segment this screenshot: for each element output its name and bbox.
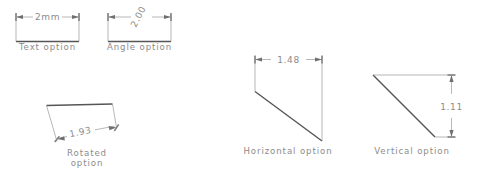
caption-text-option: Text option — [18, 42, 76, 52]
arrowhead-right — [72, 15, 79, 19]
dimension-text-1-48: 1.48 — [277, 55, 299, 65]
caption-vertical-option: Vertical option — [374, 146, 450, 156]
panel-horizontal-option: 1.48 Horizontal option — [243, 55, 332, 156]
extension-line-right — [113, 104, 117, 128]
technical-drawing-canvas: 2mm Text option 2.00 Angle option — [0, 0, 479, 174]
caption-rotated-option-line1: Rotated — [67, 148, 107, 158]
arrowhead-left — [255, 57, 262, 61]
caption-angle-option: Angle option — [107, 42, 172, 52]
panel-text-option: 2mm Text option — [16, 12, 79, 51]
caption-rotated-option-line2: option — [71, 158, 104, 168]
panel-vertical-option: 1.11 Vertical option — [373, 75, 463, 156]
arrowhead-bottom — [449, 130, 453, 137]
arrowhead-top — [449, 75, 453, 82]
object-line-diagonal — [255, 92, 322, 142]
panel-angle-option: 2.00 Angle option — [107, 4, 172, 51]
dimension-text-1-93: 1.93 — [68, 125, 92, 139]
dimension-options-illustration: 2mm Text option 2.00 Angle option — [0, 0, 479, 174]
object-line-top — [47, 104, 113, 106]
caption-horizontal-option: Horizontal option — [243, 146, 332, 156]
dimension-text-angle: 2.00 — [129, 4, 148, 29]
object-line-diagonal — [373, 75, 435, 137]
arrowhead-left — [16, 15, 23, 19]
arrowhead-right — [315, 57, 322, 61]
dimension-text-1-11: 1.11 — [440, 102, 462, 112]
arrowhead-right — [164, 15, 171, 19]
arrowhead-left — [108, 15, 115, 19]
extension-line-left — [47, 106, 58, 142]
panel-rotated-option: 1.93 Rotated option — [47, 104, 119, 168]
dimension-text-2mm: 2mm — [35, 12, 60, 22]
